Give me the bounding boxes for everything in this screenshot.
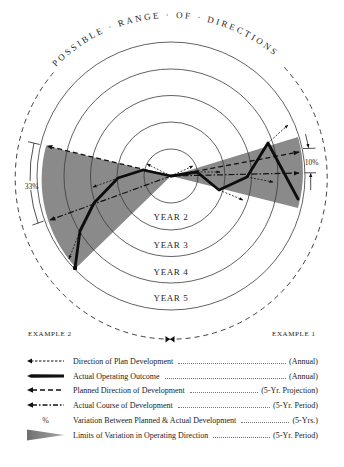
thick-solid-line-icon xyxy=(27,370,64,382)
annual-plan-arrow xyxy=(268,125,288,143)
dotted-leader xyxy=(241,421,289,423)
fine-dashed-arrow-icon xyxy=(27,355,64,367)
legend-period: (5-Yr. Period) xyxy=(273,431,318,440)
variation-bracket-right: 10% xyxy=(303,134,319,190)
gray-wedge-icon xyxy=(27,429,64,441)
variation-wedge-example-2 xyxy=(42,146,171,268)
dotted-leader xyxy=(213,436,270,438)
legend-period: (Annual) xyxy=(289,357,318,366)
variation-bracket-left: 33% xyxy=(25,142,44,225)
dash-dot-arrow-icon xyxy=(27,399,64,411)
legend-item-plan-direction: Direction of Plan Development (Annual) xyxy=(27,354,318,368)
dotted-leader xyxy=(178,406,270,408)
legend-label: Planned Direction of Development xyxy=(73,386,185,395)
example-1-label: EXAMPLE 1 xyxy=(272,330,316,338)
variation-percent-right: 10% xyxy=(305,158,319,167)
legend-period: (5-Yr. Projection) xyxy=(261,386,318,395)
legend-label: Actual Operating Outcome xyxy=(73,372,160,381)
legend-period: (5-Yrs.) xyxy=(292,416,318,425)
percent-symbol-icon: % xyxy=(27,414,64,426)
legend-label: Direction of Plan Development xyxy=(73,357,173,366)
example-2-label: EXAMPLE 2 xyxy=(28,330,72,338)
legend-label: Actual Course of Development xyxy=(73,401,173,410)
percent-symbol: % xyxy=(42,416,49,425)
long-dashed-arrow-icon xyxy=(27,384,64,396)
direction-range-diagram: POSSIBLE · RANGE · OF · DIRECTIONS YEAR … xyxy=(0,0,344,350)
dotted-leader xyxy=(178,362,286,364)
ring-label-year-5: YEAR 5 xyxy=(154,293,189,303)
legend-item-variation: % Variation Between Planned & Actual Dev… xyxy=(27,413,318,427)
legend-label: Limits of Variation in Operating Directi… xyxy=(73,431,208,440)
dotted-leader xyxy=(165,377,286,379)
arc-title: POSSIBLE · RANGE · OF · DIRECTIONS xyxy=(50,10,279,68)
legend-period: (5-Yr. Period) xyxy=(273,401,318,410)
dotted-leader xyxy=(190,391,258,393)
ring-label-year-4: YEAR 4 xyxy=(154,267,189,277)
legend-item-actual-course: Actual Course of Development (5-Yr. Peri… xyxy=(27,398,318,412)
legend-period: (Annual) xyxy=(289,372,318,381)
legend-label: Variation Between Planned & Actual Devel… xyxy=(73,416,236,425)
legend-item-planned-direction: Planned Direction of Development (5-Yr. … xyxy=(27,383,318,397)
ring-label-year-2: YEAR 2 xyxy=(154,212,189,222)
legend-item-operating-outcome: Actual Operating Outcome (Annual) xyxy=(27,369,318,383)
ring-label-year-3: YEAR 3 xyxy=(154,240,189,250)
variation-percent-left: 33% xyxy=(25,182,39,191)
legend-item-variation-limits: Limits of Variation in Operating Directi… xyxy=(27,428,318,442)
boundary-marker-icon xyxy=(166,336,175,343)
